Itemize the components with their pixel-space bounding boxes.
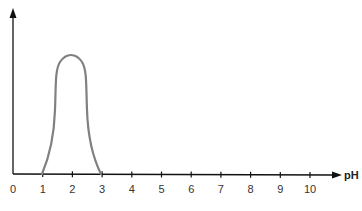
tick-label: 3 bbox=[99, 183, 105, 195]
tick-label: 5 bbox=[158, 183, 164, 195]
x-axis-arrow-icon bbox=[332, 172, 342, 179]
tick-label: 9 bbox=[277, 183, 283, 195]
tick-label: 4 bbox=[129, 183, 135, 195]
y-axis-arrow-icon bbox=[10, 8, 17, 18]
tick-label: 8 bbox=[248, 183, 254, 195]
y-axis bbox=[10, 8, 17, 174]
tick-label: 6 bbox=[188, 183, 194, 195]
x-axis-label: pH bbox=[344, 169, 359, 181]
tick-label: 1 bbox=[40, 183, 46, 195]
tick-label: 0 bbox=[10, 183, 16, 195]
tick-label: 2 bbox=[69, 183, 75, 195]
tick-label: 7 bbox=[218, 183, 224, 195]
data-curve bbox=[42, 55, 101, 174]
tick-label: 10 bbox=[304, 183, 316, 195]
chart: pH 012345678910 bbox=[0, 0, 362, 211]
x-axis: pH bbox=[13, 169, 359, 181]
